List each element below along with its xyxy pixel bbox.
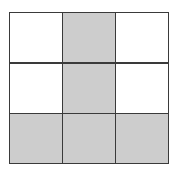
- grid-cell-r1-c2-empty: [116, 64, 168, 113]
- grid-cell-r2-c0-shaded: [10, 114, 62, 163]
- grid-cell-r1-c0-empty: [10, 64, 62, 113]
- grid-cell-r0-c1-shaded: [63, 13, 115, 62]
- grid-cell-r2-c1-shaded: [63, 114, 115, 163]
- shaded-grid-diagram: [9, 12, 169, 164]
- grid-cell-r2-c2-shaded: [116, 114, 168, 163]
- grid-cell-r1-c1-shaded: [63, 64, 115, 113]
- grid-cell-r0-c2-empty: [116, 13, 168, 62]
- grid-cell-r0-c0-empty: [10, 13, 62, 62]
